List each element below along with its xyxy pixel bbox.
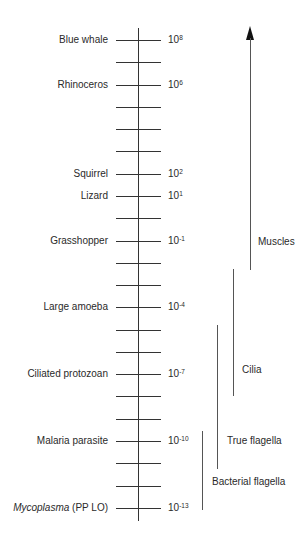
scale-tick (116, 196, 161, 197)
organism-label: Mycoplasma (PP LO) (13, 502, 108, 513)
scale-tick (116, 285, 161, 286)
magnitude-label: 10-4 (168, 301, 185, 312)
muscles-range-line (250, 38, 251, 270)
magnitude-base: 10 (168, 368, 179, 379)
scale-tick (116, 486, 161, 487)
organism-label: Squirrel (74, 168, 108, 179)
magnitude-label: 10-13 (168, 502, 189, 513)
scale-tick (116, 419, 161, 420)
magnitude-label: 108 (168, 34, 183, 45)
magnitude-label: 10-7 (168, 368, 185, 379)
cilia-label: Cilia (242, 364, 261, 375)
organism-label: Blue whale (59, 34, 108, 45)
magnitude-base: 10 (168, 502, 179, 513)
bacterial-flagella-range-line (202, 431, 203, 510)
magnitude-label: 10-1 (168, 235, 185, 246)
magnitude-exponent: 2 (179, 168, 183, 175)
scale-tick (116, 107, 161, 108)
scale-tick (116, 307, 161, 308)
bacterial-flagella-label: Bacterial flagella (212, 476, 285, 487)
magnitude-base: 10 (168, 79, 179, 90)
scale-tick (116, 151, 161, 152)
true-flagella-label: True flagella (227, 435, 282, 446)
scale-tick (116, 263, 161, 264)
organism-label: Ciliated protozoan (27, 368, 108, 379)
organism-name: Mycoplasma (13, 502, 69, 513)
organism-label: Grasshopper (50, 235, 108, 246)
magnitude-base: 10 (168, 435, 179, 446)
organism-label: Malaria parasite (37, 435, 108, 446)
scale-tick (116, 40, 161, 41)
organism-suffix: (PP LO) (72, 502, 108, 513)
organism-label: Rhinoceros (57, 79, 108, 90)
magnitude-base: 10 (168, 34, 179, 45)
scale-tick (116, 62, 161, 63)
scale-tick (116, 241, 161, 242)
scale-axis (138, 28, 139, 521)
scale-tick (116, 374, 161, 375)
magnitude-label: 102 (168, 168, 183, 179)
magnitude-exponent: -10 (179, 435, 188, 442)
scale-tick (116, 463, 161, 464)
magnitude-base: 10 (168, 235, 179, 246)
scale-tick (116, 129, 161, 130)
magnitude-exponent: -13 (179, 502, 188, 509)
true-flagella-range-line (217, 325, 218, 469)
magnitude-exponent: 8 (179, 34, 183, 41)
magnitude-label: 106 (168, 79, 183, 90)
muscles-label: Muscles (258, 236, 295, 247)
magnitude-label: 101 (168, 190, 183, 201)
magnitude-base: 10 (168, 190, 179, 201)
scale-tick (116, 174, 161, 175)
scale-tick (116, 396, 161, 397)
cilia-range-line (233, 269, 234, 396)
magnitude-exponent: 1 (179, 190, 183, 197)
scale-tick (116, 441, 161, 442)
magnitude-base: 10 (168, 168, 179, 179)
scale-tick (116, 508, 161, 509)
magnitude-exponent: 6 (179, 79, 183, 86)
organism-label: Lizard (81, 190, 108, 201)
scale-tick (116, 218, 161, 219)
scale-tick (116, 85, 161, 86)
scale-tick (116, 330, 161, 331)
magnitude-exponent: -7 (179, 368, 185, 375)
magnitude-label: 10-10 (168, 435, 189, 446)
organism-label: Large amoeba (44, 301, 109, 312)
magnitude-exponent: -4 (179, 301, 185, 308)
magnitude-base: 10 (168, 301, 179, 312)
magnitude-exponent: -1 (179, 235, 185, 242)
scale-tick (116, 352, 161, 353)
